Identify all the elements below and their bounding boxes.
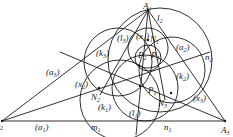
label-l3: (l3) [117, 33, 129, 44]
label-P1: P1 [147, 85, 157, 96]
label-A2: 2 [0, 125, 3, 131]
label-x3: (x3) [193, 93, 206, 104]
side-a3 [2, 10, 148, 121]
label-a1: (a1) [35, 122, 49, 133]
label-P3: P3 [150, 50, 160, 61]
label-N1: N1 [149, 34, 159, 45]
point-p1 [139, 85, 141, 87]
label-x2: (x2) [75, 79, 88, 90]
triangle [2, 10, 225, 121]
label-l2: l2 [157, 13, 163, 24]
label-m1: m1 [91, 122, 101, 133]
label-A1: A1 [142, 1, 152, 12]
geometry-diagram: A1 l2 (a2) n2 (k2) (x3) A3 n1 (l1) N3 P1… [0, 0, 233, 137]
label-k2: (k2) [176, 71, 189, 82]
point-a2 [1, 120, 3, 122]
point-n3 [170, 92, 172, 94]
label-k3: (k3) [96, 48, 109, 59]
label-x1: (x1) [136, 31, 149, 42]
label-n1: n1 [164, 122, 172, 133]
point-n2 [98, 87, 100, 89]
label-k1: (k1) [98, 102, 111, 113]
label-a2: (a2) [176, 42, 190, 53]
label-A3: A3 [220, 125, 230, 136]
label-l1: (l1) [129, 108, 141, 119]
label-N3: N3 [157, 98, 167, 109]
point-a3 [224, 120, 226, 122]
points [1, 9, 226, 122]
label-a3: (a3) [46, 67, 60, 78]
